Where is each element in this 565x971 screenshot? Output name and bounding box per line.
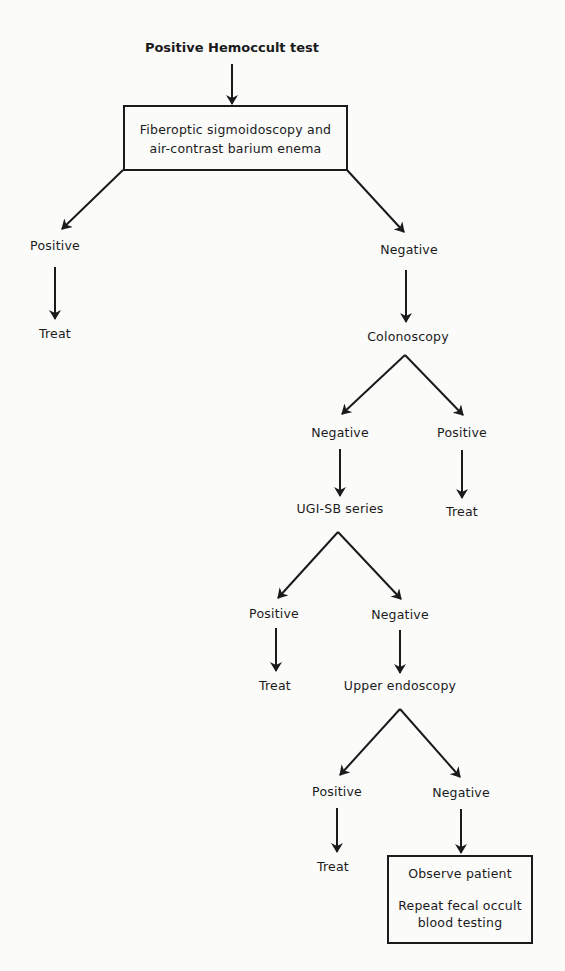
first-positive-label: Positive — [30, 240, 80, 253]
first-negative-label: Negative — [380, 244, 438, 257]
hemoccult-flowchart: Positive Hemoccult test Fiberoptic sigmo… — [0, 0, 565, 971]
arrow-box-to-negative — [347, 170, 404, 232]
colonoscopy-label: Colonoscopy — [367, 331, 449, 344]
endoscopy-positive-label: Positive — [312, 786, 362, 799]
endoscopy-negative-label: Negative — [432, 787, 490, 800]
first-positive-treat-label: Treat — [39, 328, 71, 341]
initial-test-box: Fiberoptic sigmoidoscopy and air-contras… — [123, 105, 348, 171]
upper-endoscopy-label: Upper endoscopy — [344, 680, 456, 693]
ugi-sb-series-label: UGI-SB series — [296, 503, 383, 516]
final-box-line2: Repeat fecal occult — [389, 900, 531, 913]
initial-test-line2: air-contrast barium enema — [125, 143, 346, 156]
colonoscopy-negative-label: Negative — [311, 427, 369, 440]
initial-test-line1: Fiberoptic sigmoidoscopy and — [125, 124, 346, 137]
observe-patient-box: Observe patient Repeat fecal occult bloo… — [387, 855, 533, 944]
arrow-box-to-positive — [62, 170, 123, 229]
start-node-title: Positive Hemoccult test — [145, 41, 319, 54]
final-box-line3: blood testing — [389, 917, 531, 930]
colonoscopy-positive-label: Positive — [437, 427, 487, 440]
ugi-positive-label: Positive — [249, 608, 299, 621]
ugi-positive-treat-label: Treat — [259, 680, 291, 693]
arrow-ugi-to-negative — [338, 532, 401, 599]
colonoscopy-positive-treat-label: Treat — [446, 506, 478, 519]
arrow-colonoscopy-to-positive — [405, 355, 463, 415]
endoscopy-positive-treat-label: Treat — [317, 861, 349, 874]
arrow-ugi-to-positive — [278, 532, 338, 598]
arrow-colonoscopy-to-negative — [342, 355, 405, 414]
arrow-endoscopy-to-negative — [400, 709, 460, 777]
final-box-line1: Observe patient — [389, 868, 531, 881]
ugi-negative-label: Negative — [371, 609, 429, 622]
arrow-endoscopy-to-positive — [340, 709, 400, 775]
